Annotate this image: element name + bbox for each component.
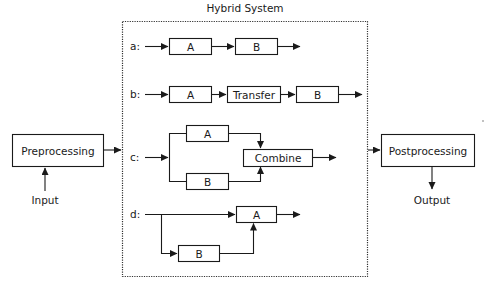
postprocessing-block: Postprocessing Output: [368, 135, 475, 207]
hybrid-system-diagram: Hybrid System Preprocessing Input Postpr…: [0, 0, 492, 285]
row-d-box-b-label: B: [195, 248, 202, 260]
output-label: Output: [414, 194, 450, 206]
row-c-box-b-label: B: [204, 176, 211, 188]
row-c-box-combine-label: Combine: [255, 152, 302, 164]
row-a: a: A B: [130, 39, 300, 55]
row-c-box-a-label: A: [204, 128, 212, 140]
row-b-box-b-label: B: [314, 89, 321, 101]
arrow-icon: [229, 167, 261, 182]
row-b-label: b:: [130, 88, 140, 100]
row-a-label: a:: [130, 40, 140, 52]
row-b-box-a-label: A: [187, 89, 195, 101]
arrow-icon: [162, 215, 178, 254]
scan-artifact-dot: [482, 120, 483, 121]
arrow-icon: [229, 134, 261, 149]
postprocessing-label: Postprocessing: [389, 145, 468, 157]
row-d: d: A B: [130, 207, 300, 262]
row-b-box-transfer-label: Transfer: [232, 89, 276, 101]
diagram-title: Hybrid System: [206, 2, 283, 14]
row-c-split-line: [170, 134, 187, 182]
row-c-label: c:: [130, 151, 139, 163]
arrow-icon: [220, 224, 254, 254]
preprocessing-block: Preprocessing Input: [13, 135, 122, 207]
row-d-label: d:: [130, 208, 140, 220]
row-a-box-b-label: B: [253, 41, 260, 53]
row-c: c: A B Combine: [130, 126, 336, 190]
preprocessing-label: Preprocessing: [21, 145, 94, 157]
row-d-box-a-label: A: [253, 209, 261, 221]
row-a-box-a-label: A: [187, 41, 195, 53]
row-b: b: A Transfer B: [130, 87, 362, 103]
input-label: Input: [31, 194, 58, 206]
